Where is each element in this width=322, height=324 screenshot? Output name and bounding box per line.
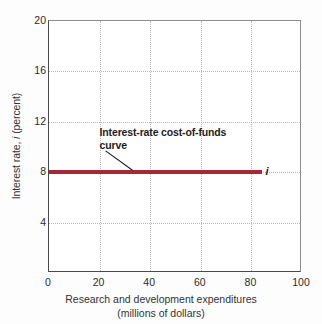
y-tick-label: 12 xyxy=(20,115,46,127)
curve-annotation-label: Interest-rate cost-of-funds curve xyxy=(100,126,227,152)
gridline-horizontal xyxy=(49,122,300,123)
gridline-horizontal xyxy=(49,223,300,224)
x-tick-label: 0 xyxy=(28,276,68,288)
plot-area: Interest-rate cost-of-funds curve xyxy=(48,20,301,272)
x-tick-label: 80 xyxy=(230,276,270,288)
cost-of-funds-curve-line xyxy=(49,170,262,174)
y-tick-label: 4 xyxy=(20,216,46,228)
y-axis-title: Interest rate, i (percent) xyxy=(8,20,24,272)
x-tick-label: 60 xyxy=(180,276,220,288)
y-axis-title-symbol: i xyxy=(10,137,22,139)
x-tick-label: 40 xyxy=(129,276,169,288)
x-axis-title: Research and development expenditures (m… xyxy=(0,292,322,320)
chart-figure: Interest rate, i (percent) 48121620 0204… xyxy=(0,0,322,324)
x-axis-title-line1: Research and development expenditures xyxy=(65,293,256,305)
y-tick-label: 8 xyxy=(20,165,46,177)
y-tick-label: 16 xyxy=(20,64,46,76)
y-tick-label: 20 xyxy=(20,14,46,26)
leader-line-path xyxy=(106,151,133,170)
x-axis-title-line2: (millions of dollars) xyxy=(0,306,322,320)
curve-series-symbol: i xyxy=(266,165,269,177)
x-tick-label: 20 xyxy=(79,276,119,288)
x-tick-label: 100 xyxy=(281,276,321,288)
gridline-vertical xyxy=(251,21,252,271)
gridline-horizontal xyxy=(49,71,300,72)
